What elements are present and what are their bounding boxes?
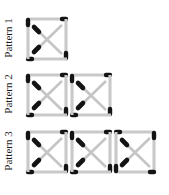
matchstick-square [68, 128, 114, 176]
pattern-row-label: Pattern 2 [0, 66, 16, 122]
pattern-row-label: Pattern 1 [0, 10, 16, 66]
matchstick-square [24, 128, 70, 176]
pattern-row: Pattern 3 [0, 123, 169, 179]
pattern-row-label: Pattern 3 [0, 123, 16, 179]
pattern-row: Pattern 1 [0, 10, 169, 66]
matchstick-square [112, 128, 158, 176]
pattern-row: Pattern 2 [0, 66, 169, 122]
matchstick-square [24, 15, 70, 63]
matchstick-square [68, 71, 114, 119]
matchstick-pattern-figure: Pattern 1 [0, 0, 169, 195]
matchstick-square [24, 71, 70, 119]
